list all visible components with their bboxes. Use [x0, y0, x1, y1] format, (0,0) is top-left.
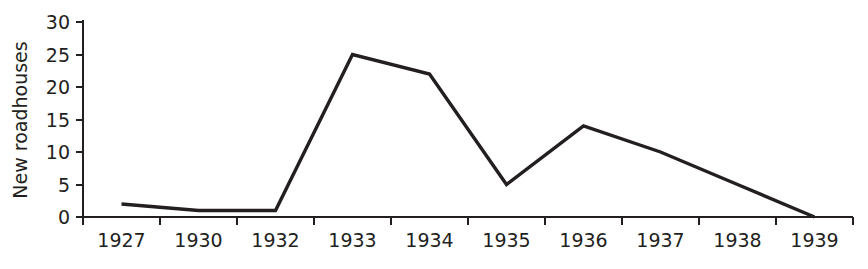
x-tick-label: 1937: [636, 229, 684, 251]
line-chart-figure: New roadhouses 051015202530 192719301932…: [0, 0, 868, 269]
y-tick-label: 15: [46, 109, 70, 131]
y-axis-tick-marks: [76, 22, 83, 217]
y-tick-label: 5: [58, 174, 70, 196]
x-tick-label: 1930: [174, 229, 222, 251]
y-axis-title-text: New roadhouses: [9, 41, 31, 198]
x-tick-label: 1938: [713, 229, 761, 251]
x-axis-tick-marks: [83, 217, 853, 225]
x-tick-label: 1936: [559, 229, 607, 251]
x-tick-label: 1932: [251, 229, 299, 251]
x-tick-label: 1934: [405, 229, 453, 251]
y-tick-label: 30: [46, 11, 70, 33]
y-tick-label: 10: [46, 141, 70, 163]
x-tick-label: 1935: [482, 229, 530, 251]
y-axis-tick-labels: 051015202530: [46, 11, 70, 228]
x-tick-label: 1939: [790, 229, 838, 251]
x-tick-label: 1927: [97, 229, 145, 251]
y-tick-label: 20: [46, 76, 70, 98]
y-tick-label: 0: [58, 206, 70, 228]
x-tick-label: 1933: [328, 229, 376, 251]
y-tick-label: 25: [46, 44, 70, 66]
data-series-line: [122, 55, 815, 218]
chart-canvas: New roadhouses 051015202530 192719301932…: [0, 0, 868, 269]
x-axis-tick-labels: 1927193019321933193419351936193719381939: [97, 229, 838, 251]
y-axis-title: New roadhouses: [9, 41, 31, 198]
